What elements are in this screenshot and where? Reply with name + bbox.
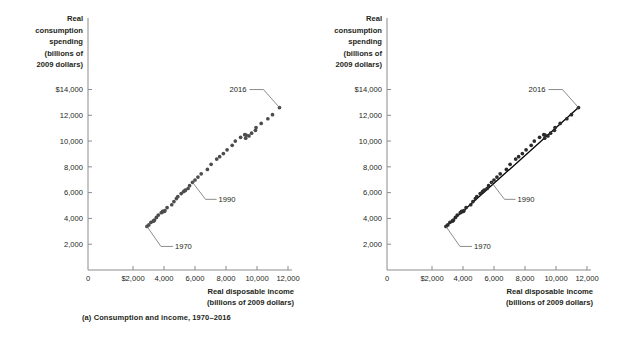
annotation-leader-1970 xyxy=(446,226,472,246)
data-point xyxy=(266,117,270,121)
data-point xyxy=(462,209,466,213)
y-tick-label: 4,000 xyxy=(363,214,382,223)
data-point xyxy=(546,134,550,138)
scatter-points xyxy=(145,106,281,229)
x-axis-title-line: (billions of 2009 dollars) xyxy=(506,298,593,307)
data-point xyxy=(505,168,509,172)
data-point xyxy=(193,178,197,182)
data-point xyxy=(188,184,192,188)
data-point xyxy=(225,148,229,152)
y-axis-title-line: (billions of xyxy=(344,49,383,58)
data-point xyxy=(239,135,243,139)
x-tick-label: 4,000 xyxy=(154,274,173,283)
data-point xyxy=(521,152,525,156)
y-tick-label: 10,000 xyxy=(60,137,83,146)
y-tick-label: 4,000 xyxy=(64,214,83,223)
y-axis-title-line: (billions of xyxy=(45,49,84,58)
x-tick-label: 4,000 xyxy=(453,274,472,283)
data-point xyxy=(471,200,475,204)
data-point xyxy=(475,195,479,199)
data-point xyxy=(498,172,502,176)
data-point xyxy=(163,209,167,213)
y-axis-title-line: Real xyxy=(366,14,382,23)
y-tick-label: 6,000 xyxy=(64,188,83,197)
panel-a: 2,0004,0006,0008,00010,00012,000$14,0000… xyxy=(0,0,317,350)
data-point xyxy=(172,200,176,204)
annotation-label-1970: 1970 xyxy=(175,242,192,251)
x-tick-label: $2,000 xyxy=(121,274,144,283)
x-tick-label: 0 xyxy=(86,274,90,283)
y-tick-label: $14,000 xyxy=(56,85,83,94)
y-tick-label: $14,000 xyxy=(355,85,382,94)
data-point xyxy=(492,178,496,182)
x-tick-label: 12,000 xyxy=(575,274,598,283)
annotation-label-2016: 2016 xyxy=(230,85,247,94)
data-point xyxy=(558,122,562,126)
y-axis-title-line: spending xyxy=(348,37,382,46)
annotation-leader-1970 xyxy=(147,226,173,246)
panel-b: 2,0004,0006,0008,00010,00012,000$14,0000… xyxy=(311,0,628,350)
data-point xyxy=(517,155,521,159)
data-point xyxy=(199,172,203,176)
data-point xyxy=(165,206,169,210)
y-axis-title-line: Real xyxy=(67,14,83,23)
y-axis-title-line: 2009 dollars) xyxy=(336,60,383,69)
data-point xyxy=(176,195,180,199)
x-axis-title-line: (billions of 2009 dollars) xyxy=(207,298,294,307)
panel-a-caption: (a) Consumption and income, 1970–2016 xyxy=(82,313,231,322)
data-point xyxy=(233,139,237,143)
data-point xyxy=(271,113,275,117)
x-axis-title-line: Real disposable income xyxy=(506,287,593,296)
data-point xyxy=(487,184,491,188)
annotation-label-2016: 2016 xyxy=(529,85,546,94)
data-point xyxy=(244,136,248,140)
data-point xyxy=(469,203,473,207)
data-point xyxy=(538,135,542,139)
data-point xyxy=(156,213,160,217)
data-point xyxy=(464,206,468,210)
data-point xyxy=(570,113,574,117)
annotation-label-1990: 1990 xyxy=(219,195,236,204)
annotation-leader-1990 xyxy=(193,182,217,199)
y-axis-title-line: 2009 dollars) xyxy=(37,60,84,69)
y-tick-label: 10,000 xyxy=(359,137,382,146)
data-point xyxy=(215,157,219,161)
data-point xyxy=(553,126,557,130)
x-tick-label: 6,000 xyxy=(484,274,503,283)
y-tick-label: 12,000 xyxy=(359,111,382,120)
annotation-label-1990: 1990 xyxy=(518,195,535,204)
y-tick-label: 6,000 xyxy=(363,188,382,197)
y-tick-label: 8,000 xyxy=(64,163,83,172)
panel-b-chart: 2,0004,0006,0008,00010,00012,000$14,0000… xyxy=(311,0,635,310)
data-point xyxy=(532,139,536,143)
data-point xyxy=(543,136,547,140)
data-point xyxy=(455,213,459,217)
data-point xyxy=(259,122,263,126)
data-point xyxy=(250,131,254,135)
data-point xyxy=(247,134,251,138)
data-point xyxy=(514,157,518,161)
data-point xyxy=(254,126,258,130)
panel-a-chart: 2,0004,0006,0008,00010,00012,000$14,0000… xyxy=(0,0,317,310)
x-tick-label: 10,000 xyxy=(544,274,567,283)
x-axis-title-line: Real disposable income xyxy=(207,287,294,296)
y-tick-label: 2,000 xyxy=(64,240,83,249)
data-point xyxy=(209,162,213,166)
y-axis-title-line: spending xyxy=(49,37,83,46)
x-tick-label: $2,000 xyxy=(420,274,443,283)
y-tick-label: 12,000 xyxy=(60,111,83,120)
annotation-leader-2016 xyxy=(548,90,578,108)
data-point xyxy=(218,155,222,159)
y-tick-label: 8,000 xyxy=(363,163,382,172)
annotation-leader-1990 xyxy=(492,182,516,199)
data-point xyxy=(196,175,200,179)
y-tick-label: 2,000 xyxy=(363,240,382,249)
x-tick-label: 8,000 xyxy=(216,274,235,283)
x-tick-label: 0 xyxy=(385,274,389,283)
data-point xyxy=(206,168,210,172)
y-axis-title-line: consumption xyxy=(35,26,83,35)
data-point xyxy=(524,148,528,152)
x-tick-label: 10,000 xyxy=(245,274,268,283)
annotation-leader-2016 xyxy=(249,90,279,108)
data-point xyxy=(508,162,512,166)
